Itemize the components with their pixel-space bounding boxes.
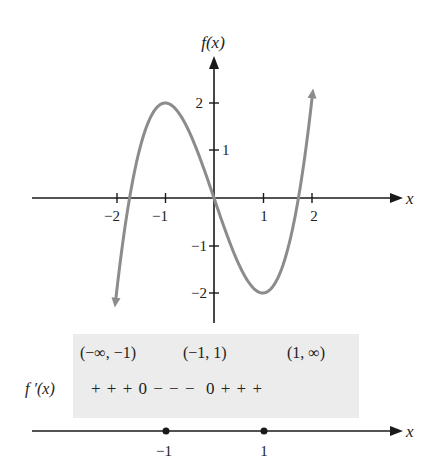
y-tick-label: 2 (196, 95, 204, 111)
y-axis-arrow-icon (209, 56, 219, 69)
y-tick-label: −2 (191, 285, 207, 301)
x-tick-label: 1 (260, 208, 268, 224)
derivative-signs: + + + 0 − − − 0 + + + (91, 379, 263, 399)
x-axis-arrow-icon (390, 193, 403, 203)
curve-arrow-up-icon (308, 88, 317, 98)
critical-point-label: −1 (156, 443, 172, 459)
x-tick-label: −2 (104, 208, 120, 224)
y-tick-label: 1 (222, 142, 230, 158)
number-line (32, 426, 403, 436)
interval-label: (1, ∞) (287, 344, 325, 362)
x-tick-label: −1 (152, 208, 168, 224)
interval-label: (−∞, −1) (80, 344, 136, 362)
figure: f(x) x −2 −1 1 2 2 1 −1 −2 x −1 1 (−∞, −… (0, 0, 432, 469)
critical-point-dot (261, 428, 268, 435)
number-line-arrow-icon (390, 426, 403, 436)
number-line-label: x (405, 422, 414, 441)
curve-arrow-down-icon (112, 297, 121, 307)
x-axis-label: x (405, 189, 414, 208)
critical-point-dot (163, 428, 170, 435)
x-tick-label: 2 (310, 208, 318, 224)
y-tick-label: −1 (191, 238, 207, 254)
y-axis-label: f(x) (201, 33, 225, 52)
interval-label: (−1, 1) (183, 344, 227, 362)
derivative-label: f ′(x) (25, 380, 55, 398)
critical-point-label: 1 (260, 443, 268, 459)
x-axis (32, 193, 403, 203)
